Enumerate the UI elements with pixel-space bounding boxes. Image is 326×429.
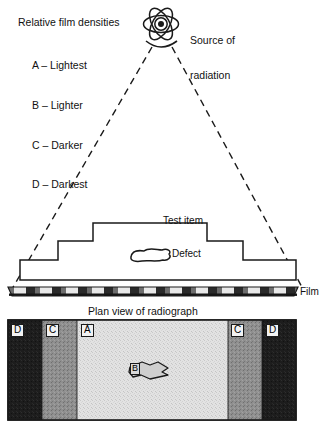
film-label: Film [300,286,319,297]
atom-nucleus-inner [158,21,164,27]
film-edge-shadow [9,294,297,296]
legend-title: Relative film densities [18,16,120,28]
plan-defect-label-b: B [130,363,140,375]
radiography-diagram: Relative film densities A – Lightest B –… [0,0,326,429]
defect-outline [131,249,170,261]
source-label-line2: radiation [190,70,235,82]
source-emission-arc [146,41,177,47]
band-label-d-right: D [266,324,279,337]
legend-item-a: A – Lightest [32,59,87,72]
atom-icon [144,5,179,47]
legend-item-c: C – Darker [32,139,87,152]
test-item-label: Test item [163,215,203,226]
source-label-line1: Source of [190,35,235,47]
source-of-radiation-label: Source of radiation [190,12,235,104]
band-label-a-center: A [81,324,94,337]
legend-item-b: B – Lighter [32,99,87,112]
band-label-c-right: C [231,324,244,337]
defect-label: Defect [172,248,201,259]
legend-list: A – Lightest B – Lighter C – Darker D – … [32,33,87,218]
plan-view-title: Plan view of radiograph [88,305,198,317]
band-label-c-left: C [46,324,59,337]
band-label-d-left: D [11,324,24,337]
legend-item-d: D – Darkest [32,178,87,191]
film-strip [8,287,298,296]
defect-shape [131,249,170,261]
